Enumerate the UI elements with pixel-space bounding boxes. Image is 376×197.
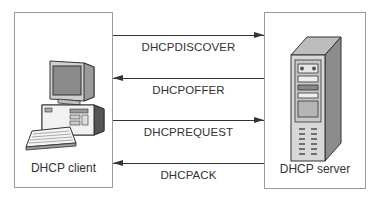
arrow-right-icon [254,117,264,123]
message-label: DHCPACK [113,169,264,181]
dhcp-client-label: DHCP client [15,161,112,175]
arrow-line [113,163,264,164]
message-dhcprequest: DHCPREQUEST [113,120,264,121]
message-dhcpoffer: DHCPOFFER [113,78,264,79]
arrow-left-icon [113,160,123,166]
dhcp-server-label: DHCP server [265,162,365,176]
message-dhcpack: DHCPACK [113,163,264,164]
arrow-line [113,120,264,121]
arrow-left-icon [113,75,123,81]
arrow-line [113,35,264,36]
tower-server-icon [287,33,347,165]
arrow-line [113,78,264,79]
message-dhcpdiscover: DHCPDISCOVER [113,35,264,36]
message-label: DHCPREQUEST [113,126,264,138]
desktop-computer-icon [24,51,108,151]
dhcp-client-box: DHCP client [14,12,113,188]
arrow-right-icon [254,32,264,38]
message-label: DHCPOFFER [113,84,264,96]
dhcp-server-box: DHCP server [264,12,366,189]
message-label: DHCPDISCOVER [113,41,264,53]
